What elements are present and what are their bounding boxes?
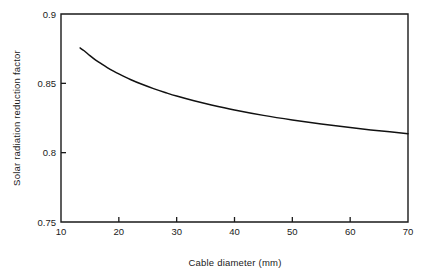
y-axis-title: Solar radiation reduction factor	[11, 50, 22, 186]
y-tick-label: 0.85	[38, 78, 57, 89]
x-tick-label: 40	[229, 226, 240, 237]
x-axis-ticks	[119, 217, 350, 222]
y-axis-tick-labels: 0.750.80.850.9	[38, 9, 57, 228]
y-tick-label: 0.9	[43, 9, 56, 20]
chart-figure: 10203040506070 0.750.80.850.9 Cable diam…	[0, 0, 423, 275]
x-tick-label: 60	[345, 226, 356, 237]
y-tick-label: 0.75	[38, 217, 57, 228]
x-tick-label: 30	[171, 226, 182, 237]
plot-frame	[61, 14, 408, 222]
data-series-group	[80, 48, 408, 134]
x-tick-label: 70	[403, 226, 414, 237]
y-tick-label: 0.8	[43, 147, 56, 158]
x-tick-label: 10	[56, 226, 67, 237]
solar-radiation-reduction-factor-chart: 10203040506070 0.750.80.850.9 Cable diam…	[0, 0, 423, 275]
x-axis-tick-labels: 10203040506070	[56, 226, 414, 237]
x-tick-label: 20	[114, 226, 125, 237]
axis-box	[61, 14, 408, 222]
data-curve	[80, 48, 408, 134]
x-tick-label: 50	[287, 226, 298, 237]
y-axis-ticks	[61, 83, 66, 152]
x-axis-title: Cable diameter (mm)	[188, 257, 281, 268]
